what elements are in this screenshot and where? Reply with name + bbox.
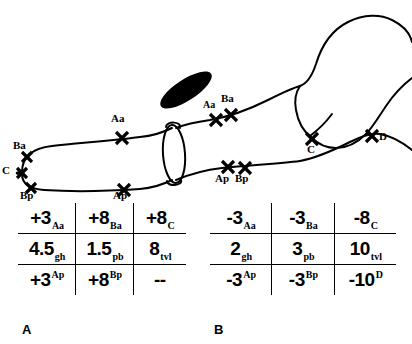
hand-inner-crease <box>310 114 332 136</box>
panel-b-caption: B <box>214 322 223 337</box>
figure-root: Ba C Bp Aa Ap Aa Ba Ap Bp C D +3Aa +8Ba … <box>0 0 412 344</box>
marker-Ba-left <box>22 152 32 162</box>
cell-a-r2c2: 1.5pb <box>76 234 133 265</box>
cell-script: Ap <box>243 269 256 280</box>
cell-b-r2c2: 3pb <box>272 234 334 265</box>
cell-script: Ap <box>52 269 65 280</box>
cell-b-r2c1: 2gh <box>210 234 272 265</box>
cell-a-r1c2: +8Ba <box>76 203 133 234</box>
cell-b-r3c3: -10D <box>334 265 396 296</box>
cell-script: Bp <box>110 269 122 280</box>
table-row: +3Aa +8Ba +8C <box>18 203 186 234</box>
cell-value: -8 <box>354 207 370 228</box>
cell-value: 1.5 <box>86 238 111 259</box>
cell-script: tvl <box>371 251 382 262</box>
cell-value: 3 <box>292 238 302 259</box>
hand-finger-crease <box>312 134 366 148</box>
cell-value: +3 <box>30 269 51 290</box>
marker-Ba-right <box>225 109 237 121</box>
cell-value: 8 <box>149 238 159 259</box>
cell-value: -- <box>154 269 166 290</box>
cell-b-r2c3: 10tvl <box>334 234 396 265</box>
cell-a-r3c1: +3Ap <box>18 265 76 296</box>
marker-label-C-left: C <box>2 165 10 176</box>
cell-a-r2c1: 4.5gh <box>18 234 76 265</box>
cell-b-r3c1: -3Ap <box>210 265 272 296</box>
cell-a-r1c1: +3Aa <box>18 203 76 234</box>
table-row: -3Ap -3Bp -10D <box>210 265 396 296</box>
cell-script: tvl <box>160 251 171 262</box>
cell-script: Bp <box>306 269 318 280</box>
cell-value: -3 <box>226 269 242 290</box>
cell-b-r1c1: -3Aa <box>210 203 272 234</box>
marker-label-Bp-left: Bp <box>20 190 33 201</box>
cell-value: 4.5 <box>29 238 54 259</box>
shaft-upper-outline <box>22 128 172 172</box>
marker-label-Ba-right: Ba <box>221 93 234 104</box>
cell-b-r1c2: -3Ba <box>272 203 334 234</box>
cell-value: +8 <box>88 207 109 228</box>
marker-label-Ap-left: Ap <box>113 190 127 201</box>
hand-thumb-outline <box>300 16 412 86</box>
cell-script: C <box>371 220 378 231</box>
cell-script: pb <box>112 251 123 262</box>
marker-label-Aa-right: Aa <box>203 100 215 110</box>
cell-value: 10 <box>350 238 370 259</box>
cell-b-r1c3: -8C <box>334 203 396 234</box>
cell-value: -3 <box>227 207 243 228</box>
marker-label-D-right: D <box>379 131 387 142</box>
cell-script: pb <box>303 251 314 262</box>
cell-script: C <box>168 220 175 231</box>
table-row: +3Ap +8Bp -- <box>18 265 186 296</box>
marker-label-C-right: C <box>307 144 315 155</box>
cell-value: 2 <box>230 238 240 259</box>
cell-script: Aa <box>52 220 64 231</box>
marker-label-Bp-right: Bp <box>235 173 248 184</box>
cell-value: +8 <box>88 269 109 290</box>
ring-ellipse <box>161 124 187 183</box>
cell-value: -3 <box>289 207 305 228</box>
cell-a-r1c3: +8C <box>133 203 186 234</box>
cell-script: Aa <box>243 220 255 231</box>
hand-knuckle-outline <box>295 86 312 138</box>
table-row: -3Aa -3Ba -8C <box>210 203 396 234</box>
cell-script: Ba <box>306 220 318 231</box>
panel-a-caption: A <box>22 322 31 337</box>
table-row: 4.5gh 1.5pb 8tvl <box>18 234 186 265</box>
cell-a-r3c2: +8Bp <box>76 265 133 296</box>
shaft-lower-outline <box>22 174 172 191</box>
panel-a-matrix: +3Aa +8Ba +8C 4.5gh 1.5pb 8tvl +3Ap <box>18 203 186 295</box>
cell-b-r3c2: -3Bp <box>272 265 334 296</box>
panel-b-matrix: -3Aa -3Ba -8C 2gh 3pb 10tvl -3Ap <box>210 203 396 295</box>
cell-script: D <box>376 269 383 280</box>
marker-label-Ba-left: Ba <box>13 140 26 151</box>
marker-label-Ap-right: Ap <box>215 173 229 184</box>
hand-finger-outline <box>366 78 412 134</box>
cell-a-r3c3: -- <box>133 265 186 296</box>
cell-value: +3 <box>30 207 51 228</box>
cell-value: -10 <box>349 269 375 290</box>
cell-value: +8 <box>146 207 167 228</box>
cell-a-r2c3: 8tvl <box>133 234 186 265</box>
cell-value: -3 <box>289 269 305 290</box>
cell-script: gh <box>241 251 252 262</box>
cell-script: gh <box>55 251 66 262</box>
cell-script: Ba <box>110 220 122 231</box>
marker-label-Aa-left: Aa <box>111 113 124 124</box>
table-row: 2gh 3pb 10tvl <box>210 234 396 265</box>
